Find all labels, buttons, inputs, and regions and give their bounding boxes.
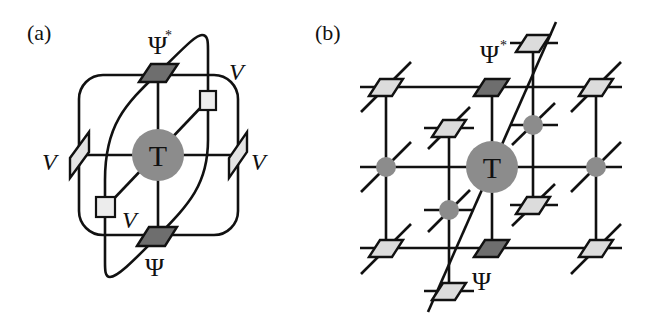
tensor-top-right [579,79,613,96]
panel-a: (a) T Ψ * Ψ V V V V [27,20,268,282]
node-right [586,157,606,177]
tensor-bottom-left [369,240,403,257]
psi-label: Ψ [145,253,165,282]
psi-star-superscript: * [165,28,172,43]
tensor-bottom-right [579,240,613,257]
psi-star-superscript-b: * [500,38,507,53]
tensor-front-top [432,120,466,137]
tensor-back-bottom [516,197,550,214]
panel-a-label: (a) [27,20,51,45]
tensor-network-figure: (a) T Ψ * Ψ V V V V (b) [0,0,655,326]
psi-star-label-b: Ψ [480,40,500,69]
psi-tensor-b [474,240,509,257]
panel-b-label: (b) [315,20,341,45]
node-back [523,115,543,135]
panel-b: (b) [315,20,622,312]
v-label-upper-right: V [229,59,246,85]
node-left [376,157,396,177]
v-square-lower-left [96,197,115,217]
tensor-top-left [369,79,403,96]
node-front [439,200,459,220]
v-label-lower-left: V [122,207,139,233]
v-label-right: V [251,149,268,175]
v-label-left: V [42,149,59,175]
psi-star-tensor-b [474,79,509,96]
figure-canvas: (a) T Ψ * Ψ V V V V (b) [0,0,655,326]
v-square-upper-right [200,91,216,110]
tensor-T-label: T [149,139,167,172]
psi-star-tensor [139,64,178,82]
psi-tensor [137,227,177,246]
psi-label-b: Ψ [472,267,492,296]
tensor-T-label-b: T [483,151,501,184]
tensor-front-bottom [432,283,466,300]
